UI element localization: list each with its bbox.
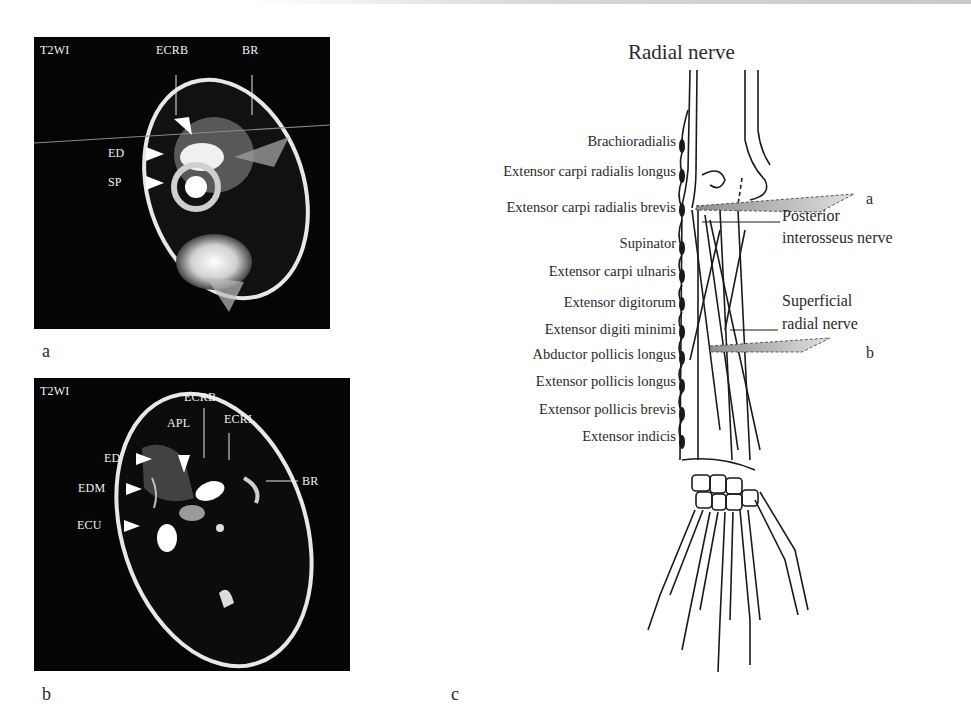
plane-label-b: b [866,344,874,362]
label-sp: SP [108,175,122,190]
panel-letter-c: c [451,684,459,705]
mri-panel-b: T2WI ECRB APL ECRL ED EDM ECU BR [34,378,350,671]
label-ecu: ECU [77,518,102,533]
label-ecrl: ECRL [224,412,255,427]
panel-letter-b: b [42,684,51,705]
muscle-label: Supinator [620,235,676,252]
muscle-label: Extensor carpi ulnaris [549,263,676,280]
label-ecrb: ECRB [156,43,188,58]
plane-label-a: a [866,190,873,208]
radial-nerve-diagram: Radial nerve Brachioradialis Extensor ca… [420,30,971,690]
muscle-label: Extensor pollicis brevis [539,401,676,418]
muscle-label: Abductor pollicis longus [533,346,676,363]
label-ed: ED [104,451,120,466]
label-br: BR [242,43,258,58]
top-edge-shading [250,0,971,4]
label-br: BR [302,474,318,489]
muscle-label: Extensor carpi radialis brevis [506,199,676,216]
muscle-branch-list: Brachioradialis Extensor carpi radialis … [420,30,676,490]
superficial-radial-label-2: radial nerve [782,315,858,333]
mri-cross-section-a [34,37,330,329]
posterior-interosseus-label-1: Posterior [782,207,840,225]
sequence-label: T2WI [40,43,69,58]
posterior-interosseus-label-2: interosseus nerve [782,229,893,247]
superficial-radial-label-1: Superficial [782,292,852,310]
muscle-label: Extensor digitorum [564,294,676,311]
muscle-label: Extensor indicis [582,428,676,445]
muscle-label: Extensor digiti minimi [545,321,676,338]
muscle-label: Brachioradialis [587,133,676,150]
label-edm: EDM [78,481,105,496]
muscle-label: Extensor carpi radialis longus [503,163,676,180]
label-ecrb: ECRB [184,390,216,405]
panel-letter-a: a [42,341,50,362]
muscle-label: Extensor pollicis longus [536,373,676,390]
section-plane-b [710,338,830,352]
sequence-label: T2WI [40,384,69,399]
label-ed: ED [108,146,124,161]
label-apl: APL [167,416,190,431]
mri-panel-a: T2WI ECRB BR ED SP [34,37,330,329]
